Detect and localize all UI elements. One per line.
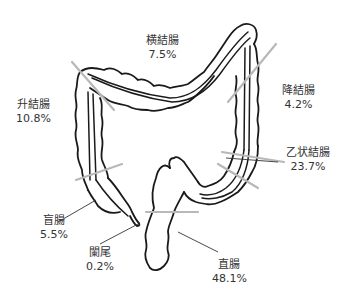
- sigmoid-colon-shape: [184, 146, 258, 204]
- segment-name: 升結腸: [16, 98, 51, 112]
- segment-name: 乙状結腸: [286, 146, 330, 160]
- descending-colon-shape: [234, 44, 259, 152]
- label-descending-colon: 降結腸 4.2%: [282, 84, 315, 112]
- label-appendix: 闌尾 0.2%: [86, 246, 114, 274]
- segment-percent: 10.8%: [16, 112, 51, 126]
- segment-percent: 7.5%: [146, 48, 179, 62]
- label-transverse-colon: 横結腸 7.5%: [146, 34, 179, 62]
- label-cecum: 盲腸 5.5%: [40, 214, 68, 242]
- segment-percent: 0.2%: [86, 260, 114, 274]
- segment-name: 闌尾: [86, 246, 114, 260]
- segment-percent: 23.7%: [286, 160, 330, 174]
- leader-appendix: [100, 224, 138, 244]
- segment-percent: 4.2%: [282, 98, 315, 112]
- label-sigmoid-colon: 乙状結腸 23.7%: [286, 146, 330, 174]
- colon-diagram: 横結腸 7.5% 升結腸 10.8% 降結腸 4.2% 乙状結腸 23.7% 盲…: [0, 0, 356, 305]
- segment-name: 降結腸: [282, 84, 315, 98]
- segment-percent: 48.1%: [212, 272, 247, 286]
- label-rectum: 直腸 48.1%: [212, 258, 247, 286]
- segment-percent: 5.5%: [40, 228, 68, 242]
- rectum-shape: [145, 157, 198, 270]
- segment-name: 直腸: [212, 258, 247, 272]
- segment-name: 盲腸: [40, 214, 68, 228]
- label-ascending-colon: 升結腸 10.8%: [16, 98, 51, 126]
- leader-rectum: [178, 232, 218, 252]
- segment-name: 横結腸: [146, 34, 179, 48]
- cecum-shape: [88, 178, 139, 226]
